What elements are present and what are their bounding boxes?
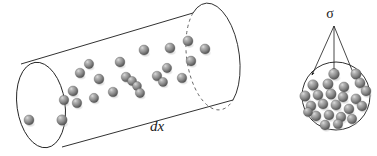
gas-molecule (68, 86, 78, 96)
gas-molecule (57, 115, 67, 125)
gas-molecule (59, 95, 69, 105)
gas-molecule (183, 36, 193, 46)
cylinder-bottom-edge (62, 100, 233, 147)
gas-molecule (139, 45, 149, 55)
gas-molecule (24, 115, 34, 125)
cross-section-label: σ (326, 6, 334, 21)
cross-section-molecule (323, 79, 333, 89)
cross-section-molecule (344, 104, 354, 114)
cross-section-molecule (339, 82, 349, 92)
gas-molecule (135, 88, 144, 97)
cross-section-molecule (318, 99, 328, 109)
cross-section-molecule (333, 119, 343, 129)
cross-section-molecule (300, 91, 310, 101)
gas-molecule (108, 87, 118, 97)
gas-molecule (186, 56, 196, 66)
sigma-arrows (312, 26, 354, 75)
figure-canvas: dx σ (0, 0, 377, 156)
gas-molecule (94, 74, 104, 84)
cross-section-molecule (326, 89, 336, 99)
cross-section-molecule (303, 107, 312, 116)
cross-section-molecule (308, 80, 319, 91)
cross-section-molecule (329, 69, 340, 80)
cylinder-group: dx (11, 3, 240, 151)
sigma-arrow-left (312, 26, 334, 75)
cross-section-molecule (357, 101, 367, 111)
cross-section-molecule (331, 100, 341, 110)
cross-section-molecule (313, 90, 323, 100)
cross-section-particles (300, 69, 373, 133)
gas-molecule (177, 73, 187, 83)
cross-section-molecule (351, 69, 361, 79)
gas-molecule (158, 77, 167, 86)
gas-molecule (75, 68, 85, 78)
cross-section-molecule (347, 114, 357, 124)
cylinder-right-cap-arc (193, 3, 240, 100)
length-label: dx (150, 118, 165, 134)
sigma-arrow-right (334, 26, 354, 75)
collision-cylinder-figure: dx σ (0, 0, 377, 156)
gas-molecule (72, 98, 82, 108)
cross-section-molecule (338, 92, 348, 102)
gas-molecule (115, 57, 125, 67)
cross-section-molecule (324, 110, 334, 120)
cylinder-particles (24, 36, 212, 128)
cross-section-molecule (361, 86, 371, 96)
gas-molecule (165, 43, 175, 53)
gas-molecule (200, 44, 210, 54)
cross-section-molecule (320, 120, 330, 130)
gas-molecule (89, 93, 98, 102)
cross-section-group: σ (300, 6, 373, 132)
gas-molecule (162, 63, 171, 72)
cylinder-top-edge (21, 13, 193, 64)
gas-molecule (84, 59, 93, 68)
